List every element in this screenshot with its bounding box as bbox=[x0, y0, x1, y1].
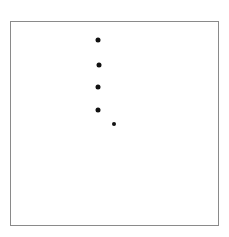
data-point bbox=[96, 108, 101, 113]
data-point bbox=[97, 63, 102, 68]
data-point bbox=[96, 85, 101, 90]
chart-canvas bbox=[0, 0, 229, 237]
data-point bbox=[96, 38, 101, 43]
data-point bbox=[112, 122, 116, 126]
